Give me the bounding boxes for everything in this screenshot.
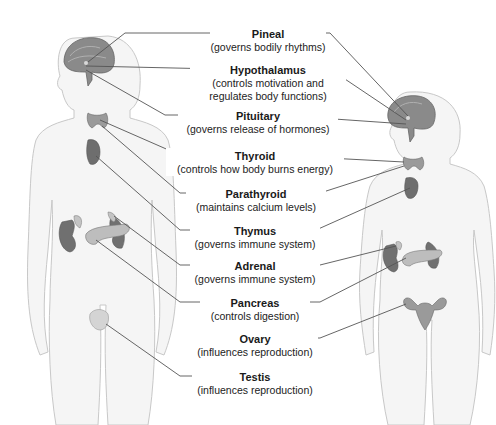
- gland-description-line2: regulates body functions): [190, 90, 346, 103]
- label-adrenal: Adrenal (governs immune system): [190, 258, 320, 286]
- male-figure: [28, 36, 177, 425]
- label-ovary: Ovary (influences reproduction): [192, 331, 318, 359]
- label-pineal: Pineal (governs bodily rhythms): [210, 26, 326, 54]
- label-hypothalamus: Hypothalamus (controls motivation and re…: [190, 62, 346, 103]
- female-figure: [359, 92, 494, 425]
- endocrine-diagram: Pineal (governs bodily rhythms) Hypothal…: [0, 0, 496, 425]
- gland-name: Testis: [238, 371, 273, 384]
- label-thyroid: Thyroid (controls how body burns energy): [166, 148, 344, 176]
- gland-name: Hypothalamus: [228, 64, 308, 77]
- gland-description: (governs immune system): [190, 273, 320, 286]
- gland-description: (governs bodily rhythms): [210, 41, 326, 54]
- gland-name: Thymus: [232, 225, 278, 238]
- gland-description: (influences reproduction): [192, 384, 318, 397]
- gland-name: Pineal: [250, 28, 286, 41]
- gland-description: (controls digestion): [200, 310, 310, 323]
- gland-description: (governs immune system): [190, 238, 320, 251]
- label-pancreas: Pancreas (controls digestion): [200, 295, 310, 323]
- label-pituitary: Pituitary (governs release of hormones): [178, 108, 338, 136]
- gland-description: (influences reproduction): [192, 346, 318, 359]
- gland-description: (maintains calcium levels): [186, 201, 326, 214]
- gland-description: (controls how body burns energy): [166, 163, 344, 176]
- label-thymus: Thymus (governs immune system): [190, 223, 320, 251]
- label-parathyroid: Parathyroid (maintains calcium levels): [186, 186, 326, 214]
- gland-name: Pituitary: [234, 110, 282, 123]
- gland-description: (governs release of hormones): [178, 123, 338, 136]
- gland-name: Pancreas: [229, 297, 282, 310]
- gland-name: Adrenal: [233, 260, 278, 273]
- gland-name: Thyroid: [233, 150, 277, 163]
- label-testis: Testis (influences reproduction): [192, 369, 318, 397]
- gland-name: Ovary: [237, 333, 272, 346]
- gland-description: (controls motivation and: [190, 77, 346, 90]
- gland-name: Parathyroid: [223, 188, 288, 201]
